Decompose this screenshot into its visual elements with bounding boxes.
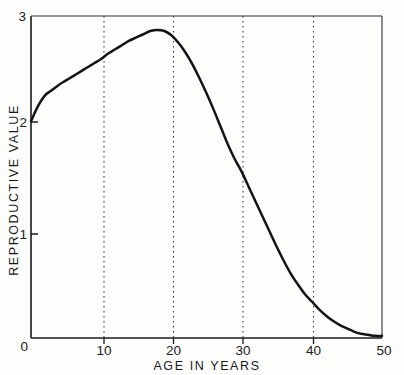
x-axis-title: AGE IN YEARS (153, 359, 260, 373)
chart-canvas: 3 2 1 0 10 20 30 40 50 AGE IN YEARS REPR… (0, 0, 404, 375)
vertical-gridlines (104, 16, 314, 338)
reproductive-value-curve (31, 30, 382, 336)
x-tick-label-30: 30 (235, 343, 250, 358)
x-axis-ticks (104, 338, 314, 344)
plot-frame (31, 16, 382, 338)
y-axis-title: REPRODUCTIVE VALUE (7, 104, 21, 276)
x-tick-label-40: 40 (306, 343, 321, 358)
y-axis-ticks (31, 122, 38, 234)
y-tick-label-0: 0 (20, 339, 28, 354)
x-tick-label-20: 20 (166, 343, 181, 358)
y-tick-label-3: 3 (18, 9, 26, 24)
x-tick-label-10: 10 (96, 343, 111, 358)
x-tick-label-50: 50 (376, 343, 391, 358)
reproductive-value-figure: 3 2 1 0 10 20 30 40 50 AGE IN YEARS REPR… (0, 0, 404, 375)
